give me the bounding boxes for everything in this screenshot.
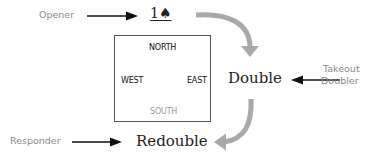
responder-arrow-icon: [72, 138, 122, 147]
bridge-table: NORTH WEST EAST SOUTH: [114, 35, 211, 122]
opener-arrow-icon: [87, 12, 138, 21]
curved-arrow-to-redouble-icon: [214, 99, 251, 151]
takeout-doubler-label-line2: Doubler: [321, 75, 359, 86]
seat-west: WEST: [121, 76, 143, 85]
seat-north: NORTH: [149, 43, 176, 52]
opener-label: Opener: [39, 9, 74, 20]
seat-east: EAST: [187, 76, 207, 85]
responder-label: Responder: [10, 135, 61, 146]
opening-bid: 1♠: [150, 5, 171, 21]
takeout-doubler-label-line1: Takeout: [323, 63, 360, 74]
redouble-bid: Redouble: [136, 132, 208, 150]
seat-south: SOUTH: [150, 107, 177, 116]
double-bid: Double: [228, 69, 282, 87]
